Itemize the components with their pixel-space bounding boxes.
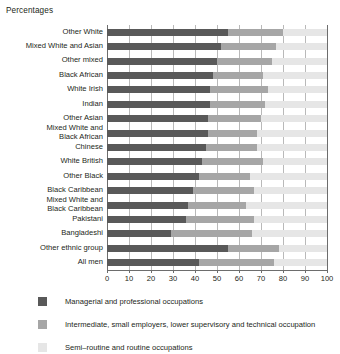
bar-row	[107, 29, 327, 36]
bar-segment	[188, 202, 245, 209]
chart-axis-title: Percentages	[6, 6, 53, 15]
bar-row	[107, 58, 327, 65]
bar-segment	[199, 259, 274, 266]
legend-label: Managerial and professional occupations	[65, 297, 203, 306]
x-tick-label: 50	[213, 274, 221, 283]
legend-swatch-icon	[38, 297, 47, 306]
x-tick-label: 60	[235, 274, 243, 283]
bar-segment	[206, 144, 257, 151]
bar-segment	[252, 230, 327, 237]
x-tick-label: 90	[301, 274, 309, 283]
x-tick-label: 80	[279, 274, 287, 283]
x-tick	[283, 270, 284, 273]
bar-row	[107, 187, 327, 194]
bar-segment	[107, 72, 213, 79]
legend-swatch-icon	[38, 343, 47, 352]
bar-segment	[107, 173, 199, 180]
category-label: White British	[0, 157, 103, 165]
category-label: White Irish	[0, 85, 103, 93]
bar-segment	[107, 202, 188, 209]
bar-row	[107, 245, 327, 252]
x-tick-label: 30	[169, 274, 177, 283]
bar-segment	[107, 86, 210, 93]
bar-segment	[263, 158, 327, 165]
bar-row	[107, 230, 327, 237]
chart-legend: Managerial and professional occupationsI…	[0, 294, 340, 354]
bar-segment	[107, 245, 228, 252]
bar-segment	[107, 115, 208, 122]
category-label: Other mixed	[0, 56, 103, 64]
category-label: Chinese	[0, 143, 103, 151]
bar-row	[107, 144, 327, 151]
x-tick-label: 20	[147, 274, 155, 283]
bar-segment	[213, 72, 264, 79]
x-tick	[261, 270, 262, 273]
bar-segment	[107, 43, 221, 50]
bar-row	[107, 43, 327, 50]
category-label: Black Caribbean	[0, 186, 103, 194]
x-axis-tick-labels: 0102030405060708090100	[107, 274, 327, 286]
category-label: Bangladeshi	[0, 229, 103, 237]
bar-segment	[193, 187, 255, 194]
bar-segment	[171, 230, 252, 237]
bar-segment	[107, 58, 217, 65]
bar-segment	[107, 144, 206, 151]
bar-row	[107, 158, 327, 165]
bar-segment	[228, 29, 283, 36]
legend-label: Semi–routine and routine occupations	[65, 343, 193, 352]
bar-segment	[199, 173, 250, 180]
bar-rows	[107, 25, 327, 270]
bar-segment	[210, 86, 267, 93]
legend-label: Intermediate, small employers, lower sup…	[65, 320, 315, 329]
bar-segment	[261, 115, 327, 122]
x-tick-label: 40	[191, 274, 199, 283]
category-label: Other Asian	[0, 114, 103, 122]
bar-segment	[272, 58, 327, 65]
bar-row	[107, 259, 327, 266]
bar-segment	[263, 72, 327, 79]
category-label: Black African	[0, 71, 103, 79]
bar-segment	[250, 173, 327, 180]
x-tick-label: 10	[125, 274, 133, 283]
bar-segment	[228, 245, 279, 252]
x-tick	[305, 270, 306, 273]
x-tick	[129, 270, 130, 273]
bar-segment	[208, 130, 256, 137]
x-tick	[239, 270, 240, 273]
x-tick	[107, 270, 108, 273]
bar-segment	[283, 29, 327, 36]
bar-segment	[107, 130, 208, 137]
category-label: Other ethnic group	[0, 244, 103, 252]
gridline	[327, 25, 328, 270]
bar-row	[107, 101, 327, 108]
x-tick	[173, 270, 174, 273]
bar-row	[107, 115, 327, 122]
x-tick	[195, 270, 196, 273]
bar-segment	[107, 259, 199, 266]
x-tick-label: 70	[257, 274, 265, 283]
bar-row	[107, 216, 327, 223]
plot-area	[107, 25, 327, 270]
bar-segment	[257, 130, 327, 137]
legend-item[interactable]: Managerial and professional occupations	[38, 294, 203, 308]
x-tick-label: 100	[321, 274, 334, 283]
bar-segment	[221, 43, 276, 50]
legend-item[interactable]: Semi–routine and routine occupations	[38, 340, 193, 354]
bar-segment	[257, 144, 327, 151]
legend-swatch-icon	[38, 320, 47, 329]
bar-segment	[107, 101, 210, 108]
bar-segment	[202, 158, 264, 165]
category-label: Indian	[0, 100, 103, 108]
category-label: Mixed White and Black Caribbean	[0, 196, 103, 213]
category-label: All men	[0, 258, 103, 266]
bar-segment	[217, 58, 272, 65]
legend-item[interactable]: Intermediate, small employers, lower sup…	[38, 317, 315, 331]
bar-segment	[268, 86, 327, 93]
bar-row	[107, 130, 327, 137]
bar-row	[107, 173, 327, 180]
bar-segment	[254, 187, 327, 194]
bar-row	[107, 202, 327, 209]
bar-segment	[210, 101, 265, 108]
x-tick-label: 0	[105, 274, 109, 283]
bar-segment	[107, 29, 228, 36]
